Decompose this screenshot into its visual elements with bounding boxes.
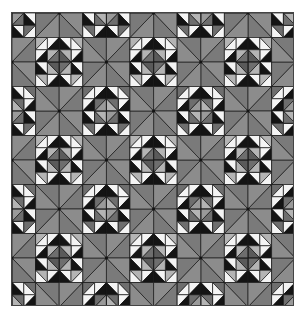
x-star-block (177, 38, 224, 87)
x-star-block (36, 87, 83, 136)
light-octagon-block (36, 136, 83, 185)
light-octagon-block (224, 38, 271, 87)
dark-octagon-block (83, 283, 130, 307)
light-octagon-block (36, 234, 83, 283)
x-star-block (272, 38, 294, 87)
x-star-block (12, 234, 36, 283)
dark-octagon-block (177, 87, 224, 136)
x-star-block (130, 283, 177, 307)
x-star-block (224, 283, 271, 307)
dark-octagon-block (177, 185, 224, 234)
light-octagon-block (130, 234, 177, 283)
x-star-block (177, 136, 224, 185)
dark-octagon-block (272, 283, 294, 307)
dark-octagon-block (272, 87, 294, 136)
dark-octagon-block (272, 185, 294, 234)
dark-octagon-block (12, 87, 36, 136)
x-star-block (130, 13, 177, 38)
light-octagon-block (36, 38, 83, 87)
quilt-image: Geometric quilt pattern (11, 12, 294, 306)
x-star-block (36, 13, 83, 38)
x-star-block (130, 87, 177, 136)
dark-octagon-block (12, 13, 36, 38)
dark-octagon-block (12, 185, 36, 234)
x-star-block (12, 38, 36, 87)
x-star-block (224, 13, 271, 38)
x-star-block (83, 38, 130, 87)
light-octagon-block (224, 234, 271, 283)
x-star-block (177, 234, 224, 283)
dark-octagon-block (83, 13, 130, 38)
x-star-block (130, 185, 177, 234)
dark-octagon-block (83, 87, 130, 136)
x-star-block (83, 136, 130, 185)
light-octagon-block (224, 136, 271, 185)
x-star-block (224, 87, 271, 136)
dark-octagon-block (272, 13, 294, 38)
dark-octagon-block (83, 185, 130, 234)
x-star-block (83, 234, 130, 283)
light-octagon-block (130, 136, 177, 185)
x-star-block (272, 234, 294, 283)
dark-octagon-block (177, 283, 224, 307)
light-octagon-block (130, 38, 177, 87)
x-star-block (36, 185, 83, 234)
x-star-block (224, 185, 271, 234)
dark-octagon-block (177, 13, 224, 38)
x-star-block (12, 136, 36, 185)
x-star-block (272, 136, 294, 185)
quilt-pattern (12, 13, 294, 306)
dark-octagon-block (12, 283, 36, 307)
x-star-block (36, 283, 83, 307)
